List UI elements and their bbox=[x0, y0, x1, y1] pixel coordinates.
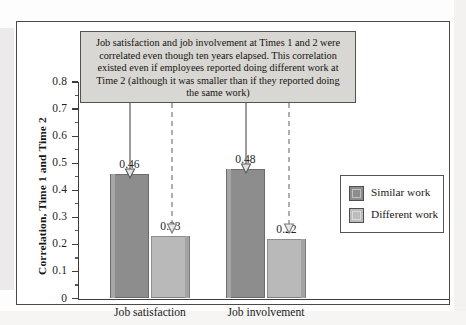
legend-swatch-inner bbox=[352, 211, 361, 220]
legend-label-similar-work: Similar work bbox=[371, 187, 430, 198]
y-axis-tick-label: 0.7 bbox=[27, 103, 67, 115]
y-axis-tick-major bbox=[72, 298, 78, 299]
scan-band-left bbox=[0, 28, 14, 290]
y-axis-tick-label: 0.3 bbox=[27, 211, 67, 223]
y-axis-tick-major bbox=[72, 244, 78, 245]
bar-edge-highlight bbox=[110, 174, 115, 298]
x-axis-category-label: Job satisfaction bbox=[85, 307, 215, 319]
y-axis-tick-major bbox=[72, 163, 78, 164]
legend-swatch-similar-work bbox=[349, 186, 364, 201]
legend-item-similar-work: Similar work bbox=[349, 182, 443, 204]
chart-legend: Similar work Different work bbox=[340, 175, 444, 233]
y-axis-tick-minor bbox=[75, 122, 79, 123]
y-axis-tick-minor bbox=[75, 257, 79, 258]
y-axis-tick-label: 0.1 bbox=[27, 265, 67, 277]
bar-edge-highlight bbox=[185, 236, 190, 298]
chart-plot-area: Correlation, Time 1 and Time 2 0.80.70.6… bbox=[17, 22, 449, 304]
y-axis-tick-major bbox=[72, 136, 78, 137]
y-axis-tick-minor bbox=[75, 284, 79, 285]
x-axis-line bbox=[78, 299, 449, 300]
bar-value-label: 0.23 bbox=[149, 221, 193, 233]
y-axis-tick-major bbox=[72, 217, 78, 218]
annotation-callout: Job satisfaction and job involvement at … bbox=[80, 31, 356, 103]
y-axis-line bbox=[78, 82, 79, 299]
bar-job-satisfaction-similar-work bbox=[110, 174, 149, 298]
y-axis-tick-major bbox=[72, 108, 78, 109]
y-axis-tick-minor bbox=[75, 149, 79, 150]
y-axis-tick-label: 0.6 bbox=[27, 130, 67, 142]
y-axis-tick-label: 0.2 bbox=[27, 238, 67, 250]
legend-label-different-work: Different work bbox=[371, 209, 438, 220]
bar-edge-highlight bbox=[301, 239, 306, 299]
y-axis-tick-major bbox=[72, 271, 78, 272]
y-axis-tick-label: 0.4 bbox=[27, 184, 67, 196]
y-axis-tick-minor bbox=[75, 230, 79, 231]
x-axis-category-label: Job involvement bbox=[201, 307, 331, 319]
bar-edge-highlight bbox=[226, 169, 231, 299]
bar-value-label: 0.22 bbox=[265, 224, 309, 236]
bar-job-satisfaction-different-work bbox=[151, 236, 190, 298]
y-axis-tick-minor bbox=[75, 95, 79, 96]
bar-value-label: 0.48 bbox=[224, 154, 268, 166]
y-axis-tick-minor bbox=[75, 176, 79, 177]
figure-frame: Correlation, Time 1 and Time 2 0.80.70.6… bbox=[16, 21, 450, 305]
bar-job-involvement-different-work bbox=[267, 239, 306, 299]
legend-swatch-different-work bbox=[349, 208, 364, 223]
bar-face bbox=[110, 174, 149, 298]
y-axis-tick-major bbox=[72, 81, 78, 82]
legend-swatch-inner bbox=[352, 189, 361, 198]
y-axis-tick-label: 0.5 bbox=[27, 157, 67, 169]
bar-job-involvement-similar-work bbox=[226, 169, 265, 299]
y-axis-tick-minor bbox=[75, 203, 79, 204]
bar-face bbox=[226, 169, 265, 299]
y-axis-tick-label: 0 bbox=[27, 293, 67, 305]
bar-value-label: 0.46 bbox=[108, 159, 152, 171]
scan-band-right bbox=[454, 0, 466, 325]
legend-item-different-work: Different work bbox=[349, 204, 443, 226]
y-axis-tick-label: 0.8 bbox=[27, 76, 67, 88]
y-axis-tick-major bbox=[72, 190, 78, 191]
